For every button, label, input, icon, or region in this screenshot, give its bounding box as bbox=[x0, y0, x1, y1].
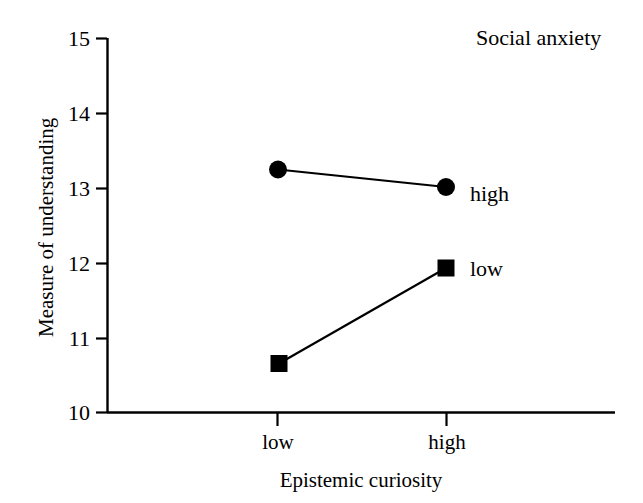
series-high bbox=[269, 161, 455, 197]
series-low-line bbox=[279, 268, 446, 364]
series-label-low: low bbox=[470, 258, 503, 280]
series-low-point-high bbox=[438, 260, 455, 277]
y-tick-label-15: 15 bbox=[48, 28, 90, 50]
y-axis-ticks bbox=[96, 39, 107, 413]
x-axis-title: Epistemic curiosity bbox=[211, 470, 511, 491]
series-high-point-low bbox=[269, 161, 287, 179]
chart-title: Social anxiety bbox=[476, 27, 601, 49]
series-label-high: high bbox=[470, 183, 509, 205]
series-low-point-low bbox=[271, 355, 288, 372]
x-axis-ticks bbox=[278, 413, 447, 426]
series-high-line bbox=[278, 170, 446, 188]
y-axis-title: Measure of understanding bbox=[36, 118, 57, 337]
x-tick-label-low: low bbox=[228, 432, 328, 453]
series-low bbox=[271, 260, 455, 373]
series-high-point-high bbox=[437, 178, 455, 196]
y-tick-label-10: 10 bbox=[48, 402, 90, 424]
interaction-plot-figure: Social anxiety 15 14 13 12 11 10 low hig… bbox=[0, 0, 643, 503]
plot-canvas bbox=[0, 0, 643, 503]
x-tick-label-high: high bbox=[397, 432, 497, 453]
